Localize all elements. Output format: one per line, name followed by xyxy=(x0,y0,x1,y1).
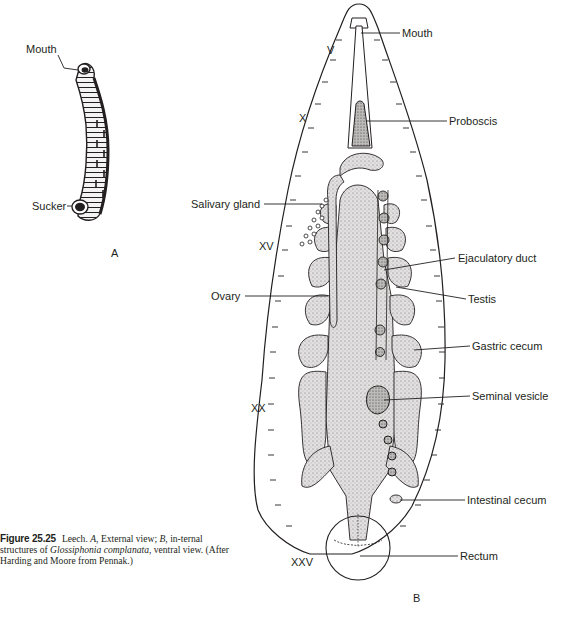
caption-text-1: Leech. xyxy=(62,533,90,544)
caption-species: Glossiphonia complanata xyxy=(50,544,149,555)
label-rectum: Rectum xyxy=(460,550,498,562)
segment-marker-xv: XV xyxy=(259,240,274,252)
caption-text-2: , External view; xyxy=(96,533,159,544)
label-intestinal-cecum: Intestinal cecum xyxy=(467,494,546,506)
panel-b-leech-internal xyxy=(254,4,445,580)
label-salivary-gland: Salivary gland xyxy=(191,198,260,210)
label-proboscis: Proboscis xyxy=(449,115,497,127)
figure-number: Figure 25.25 xyxy=(0,533,56,544)
segment-marker-v: V xyxy=(327,44,334,56)
label-seminal-vesicle: Seminal vesicle xyxy=(472,390,548,402)
panel-letter-a: A xyxy=(111,247,118,259)
panel-letter-b: B xyxy=(413,592,420,604)
segment-marker-xxv: XXV xyxy=(291,556,313,568)
label-sucker: Sucker xyxy=(32,200,66,212)
label-ejaculatory-duct: Ejaculatory duct xyxy=(458,252,536,264)
label-ovary: Ovary xyxy=(211,290,240,302)
segment-marker-xx: XX xyxy=(251,402,266,414)
label-mouth-external: Mouth xyxy=(26,43,57,55)
label-gastric-cecum: Gastric cecum xyxy=(472,340,542,352)
segment-marker-x: X xyxy=(299,112,306,124)
label-mouth-internal: Mouth xyxy=(402,27,433,39)
panel-a-leech-external xyxy=(58,55,108,220)
figure-caption: Figure 25.25Leech. A, External view; B, … xyxy=(0,533,234,566)
label-testis: Testis xyxy=(468,293,496,305)
